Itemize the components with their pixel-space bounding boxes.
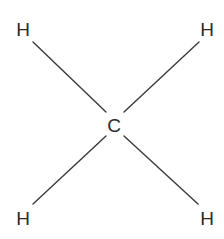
hydrogen-atom-top-right: H [200,19,214,40]
carbon-atom-label: C [107,115,121,136]
bond-top-left [33,42,106,112]
hydrogen-atom-bottom-left: H [16,208,30,229]
bond-top-right [124,42,199,112]
methane-diagram: C H H H H [0,0,224,239]
bond-bottom-right [124,136,198,204]
bond-bottom-left [33,136,106,204]
hydrogen-atom-top-left: H [16,19,30,40]
hydrogen-atom-bottom-right: H [200,208,214,229]
